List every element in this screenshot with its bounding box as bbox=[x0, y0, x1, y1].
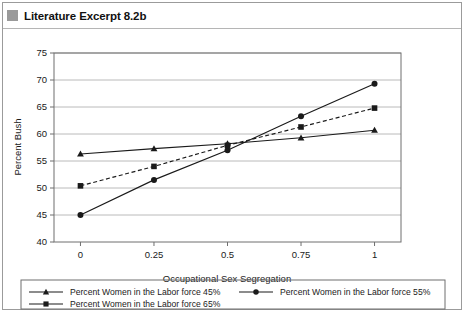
page-title: Literature Excerpt 8.2b bbox=[24, 10, 146, 22]
chart-area: 4045505560657075 00.250.50.751 Percent B… bbox=[3, 29, 463, 310]
chart-legend: Percent Women in the Labor force 45%Perc… bbox=[29, 287, 431, 309]
figure-container: Literature Excerpt 8.2b 4045505560657075… bbox=[2, 2, 462, 310]
y-tick-label: 40 bbox=[36, 236, 47, 247]
x-tick-label: 0.25 bbox=[145, 249, 164, 260]
chart-series bbox=[78, 105, 378, 188]
legend-item: Percent Women in the Labor force 45% bbox=[29, 287, 221, 297]
legend-label: Percent Women in the Labor force 65% bbox=[70, 299, 221, 309]
legend-item: Percent Women in the Labor force 65% bbox=[29, 299, 221, 309]
legend-item: Percent Women in the Labor force 55% bbox=[239, 287, 431, 297]
chart-series-group bbox=[77, 81, 378, 218]
legend-label: Percent Women in the Labor force 45% bbox=[70, 287, 221, 297]
legend-label: Percent Women in the Labor force 55% bbox=[280, 287, 431, 297]
y-tick-label: 75 bbox=[36, 47, 47, 58]
x-tick-label: 0 bbox=[78, 249, 83, 260]
chart-series bbox=[77, 81, 377, 218]
y-tick-label: 50 bbox=[36, 182, 47, 193]
caption-strip bbox=[0, 311, 466, 319]
x-axis-label: Occupational Sex Segregation bbox=[163, 273, 291, 284]
title-bullet-icon bbox=[7, 10, 18, 21]
y-tick-label: 55 bbox=[36, 155, 47, 166]
y-tick-label: 65 bbox=[36, 101, 47, 112]
y-tick-label: 70 bbox=[36, 74, 47, 85]
x-tick-label: 0.75 bbox=[292, 249, 311, 260]
chart-gridlines bbox=[54, 53, 401, 215]
y-axis-label: Percent Bush bbox=[12, 118, 23, 175]
line-chart: 4045505560657075 00.250.50.751 Percent B… bbox=[3, 29, 463, 310]
y-tick-label: 60 bbox=[36, 128, 47, 139]
figure-title-bar: Literature Excerpt 8.2b bbox=[3, 3, 461, 29]
x-axis-ticks: 00.250.50.751 bbox=[78, 242, 377, 260]
x-tick-label: 0.5 bbox=[221, 249, 234, 260]
y-axis-ticks: 4045505560657075 bbox=[36, 47, 54, 247]
x-tick-label: 1 bbox=[372, 249, 377, 260]
y-tick-label: 45 bbox=[36, 209, 47, 220]
